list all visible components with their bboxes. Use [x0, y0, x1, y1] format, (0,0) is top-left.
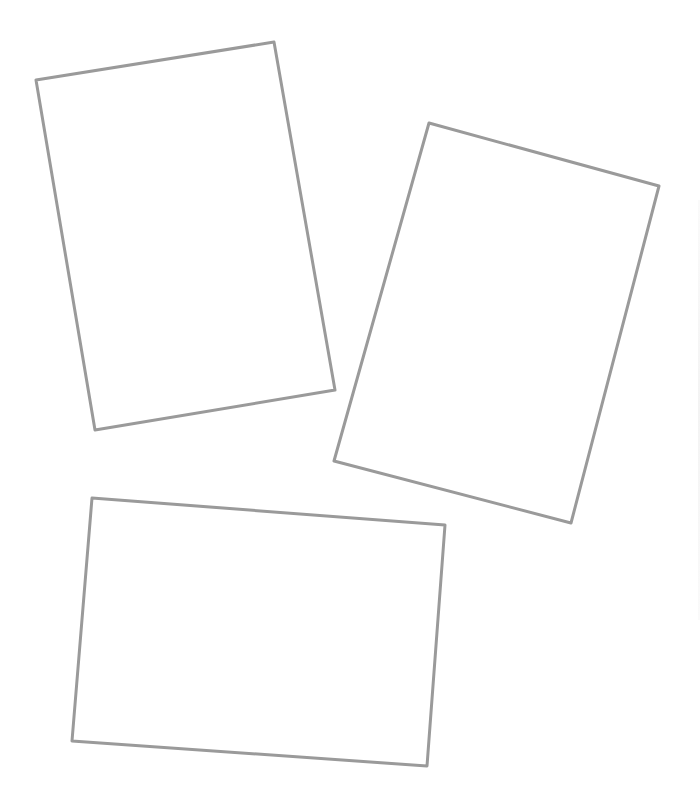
- blank-frame-top-left: [36, 42, 335, 430]
- drawing-canvas: [0, 0, 700, 802]
- blank-frame-bottom: [72, 498, 445, 766]
- blank-frame-right: [334, 123, 659, 523]
- frames-svg: [0, 0, 700, 802]
